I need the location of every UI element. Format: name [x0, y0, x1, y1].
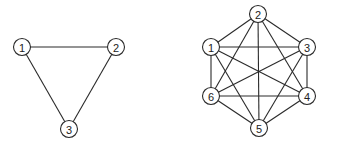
edge-2-3 [69, 47, 116, 129]
node-6: 6 [203, 88, 220, 105]
node-1: 1 [14, 39, 31, 56]
node-2: 2 [108, 39, 125, 56]
node-4: 4 [299, 88, 316, 105]
node-3: 3 [61, 121, 78, 138]
node-label: 2 [255, 9, 261, 21]
nodes: 123 [14, 39, 125, 138]
complete-graph-k6: 123456 [203, 6, 316, 137]
node-3: 3 [299, 39, 316, 56]
complete-graph-k3: 123 [14, 39, 125, 138]
edge-1-3 [22, 47, 69, 129]
node-label: 3 [66, 124, 72, 136]
node-1: 1 [203, 39, 220, 56]
edges [211, 14, 307, 128]
node-label: 3 [304, 42, 310, 54]
node-label: 6 [208, 91, 214, 103]
node-label: 1 [208, 42, 214, 54]
edges [22, 47, 116, 129]
node-label: 1 [19, 42, 25, 54]
node-label: 5 [256, 123, 262, 135]
node-label: 4 [304, 91, 310, 103]
node-label: 2 [113, 42, 119, 54]
node-5: 5 [251, 120, 268, 137]
graph-diagram-canvas: 123 123456 [0, 0, 337, 147]
node-2: 2 [250, 6, 267, 23]
